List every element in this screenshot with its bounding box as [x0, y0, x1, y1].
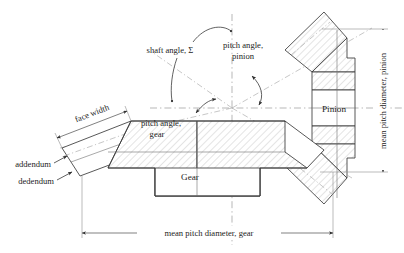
- bevel-gear-diagram: Pinion Gear shaft angle,: [0, 0, 404, 253]
- addendum-label: addendum: [15, 159, 51, 169]
- addendum-dedendum-annotation: addendum dedendum: [15, 156, 72, 186]
- pinion-upper-rim: [312, 72, 355, 90]
- pitch-angle-pinion-arc: [252, 76, 262, 105]
- dedendum-leader: [57, 172, 72, 180]
- face-width-ext-left: [55, 133, 62, 148]
- gear-label: Gear: [181, 172, 199, 182]
- shaft-angle-annotation: shaft angle, Σ: [147, 27, 231, 101]
- dedendum-label: dedendum: [18, 176, 54, 186]
- shaft-angle-leader-lower: [171, 58, 177, 101]
- pitch-angle-gear-arc: [196, 99, 216, 113]
- face-width-ext-right: [125, 106, 131, 121]
- gear-assembly: Gear: [62, 121, 324, 196]
- face-width-label: face width: [73, 102, 111, 124]
- pinion-label: Pinion: [322, 104, 346, 114]
- pitch-line-mirror-upper: [152, 52, 232, 108]
- pinion-lower-rim: [312, 126, 355, 144]
- pitch-angle-pinion-annotation: pitch angle, pinion: [223, 40, 263, 105]
- pitch-angle-pinion-label-2: pinion: [232, 51, 255, 61]
- pitch-angle-gear-label-2: gear: [150, 129, 165, 139]
- gear-hub: [155, 168, 260, 196]
- addendum-leader: [54, 156, 67, 163]
- pitch-angle-gear-label-1: pitch angle,: [141, 118, 181, 128]
- mean-pitch-diameter-gear-label: mean pitch diameter, gear: [165, 228, 254, 238]
- mean-pitch-diameter-pinion-label: mean pitch diameter, pinion: [378, 52, 388, 149]
- pitch-angle-pinion-label-1: pitch angle,: [223, 40, 263, 50]
- shaft-angle-label: shaft angle, Σ: [147, 45, 194, 55]
- diagram-canvas: Pinion Gear shaft angle,: [0, 0, 404, 253]
